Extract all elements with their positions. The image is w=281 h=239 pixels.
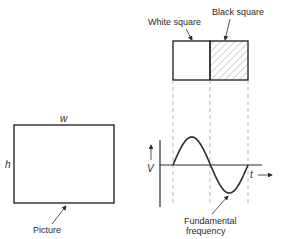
- white-square-label: White square: [148, 17, 201, 27]
- picture-pointer-arrow: [52, 206, 66, 224]
- fundamental-pointer-arrow: [212, 196, 228, 214]
- picture-label: Picture: [33, 225, 61, 235]
- time-label: t: [250, 169, 254, 180]
- height-label: h: [5, 159, 11, 170]
- width-label: w: [60, 113, 68, 124]
- voltage-label: V: [147, 163, 155, 174]
- black-square: [210, 41, 248, 80]
- picture-frame: [14, 125, 114, 203]
- white-square-pointer-arrow: [186, 29, 192, 40]
- white-square: [173, 41, 210, 80]
- fundamental-label-line2: frequency: [186, 226, 226, 236]
- fundamental-label-line1: Fundamental: [184, 216, 237, 226]
- black-square-pointer-arrow: [225, 19, 230, 40]
- black-square-label: Black square: [212, 7, 264, 17]
- diagram-canvas: w h Picture White square Black square V …: [0, 0, 281, 239]
